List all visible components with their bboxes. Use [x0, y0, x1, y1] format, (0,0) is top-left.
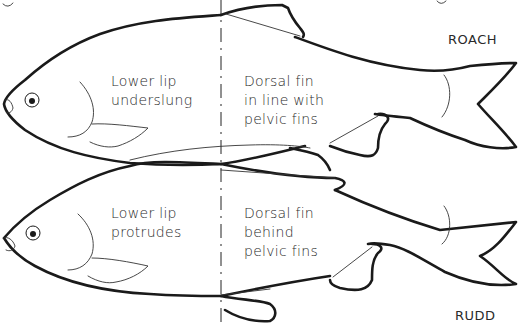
roach-head-note-line-2: underslung: [111, 91, 192, 110]
rudd-anal-fin: [330, 244, 381, 290]
roach-anal-fin-base: [330, 116, 378, 143]
roach-tail-root: [442, 75, 450, 117]
rudd-eye-pupil: [30, 231, 36, 237]
rudd-fin-note: Dorsal fin behind pelvic fins: [244, 204, 318, 261]
roach-fin-note: Dorsal fin in line with pelvic fins: [244, 72, 324, 129]
roach-anal-fin: [330, 114, 388, 156]
rudd-pectoral-fin: [88, 258, 148, 283]
roach-fin-note-line-3: pelvic fins: [244, 110, 324, 129]
roach-back-outline: [221, 5, 304, 37]
rudd-pelvic-fin: [221, 296, 275, 321]
rudd-head-note-line-1: Lower lip: [111, 204, 182, 223]
roach-pelvic-fin-2: [290, 148, 330, 170]
roach-fin-note-line-2: in line with: [244, 91, 324, 110]
rudd-tail-root: [442, 206, 450, 244]
roach-species-label: ROACH: [448, 32, 497, 47]
rudd-fin-note-line-1: Dorsal fin: [244, 204, 318, 223]
roach-gill-cover: [68, 82, 94, 137]
rudd-species-label: RUDD: [455, 308, 496, 323]
roach-back-outline-2: [295, 37, 516, 148]
roach-dorsal-fin-base: [226, 14, 300, 36]
roach-head-note-line-1: Lower lip: [111, 72, 192, 91]
roach-eye-pupil: [29, 98, 35, 104]
rudd-gill-cover: [68, 214, 93, 270]
rudd-fin-note-line-3: pelvic fins: [244, 242, 318, 261]
cropped-text-fragment: [437, 1, 446, 4]
rudd-head-note-line-2: protrudes: [111, 223, 182, 242]
cropped-text-fragment: [3, 3, 13, 6]
roach-fin-note-line-1: Dorsal fin: [244, 72, 324, 91]
rudd-head-note: Lower lip protrudes: [111, 204, 182, 242]
rudd-fin-note-line-2: behind: [244, 223, 318, 242]
fish-comparison-diagram: [0, 0, 519, 328]
rudd-anal-fin-base: [333, 247, 372, 277]
rudd-back-outline-2: [335, 190, 516, 285]
roach-pectoral-fin: [90, 124, 148, 147]
roach-head-note: Lower lip underslung: [111, 72, 192, 110]
rudd-dorsal-fin-base: [221, 170, 335, 178]
